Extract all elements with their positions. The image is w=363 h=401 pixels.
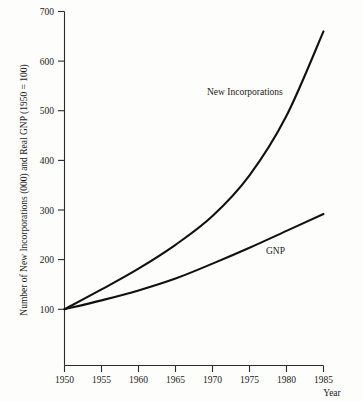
series-line-new-incorporations <box>65 31 324 309</box>
y-tick-label-100: 100 <box>40 305 55 315</box>
x-tick-label-1965: 1965 <box>166 375 185 385</box>
series-annotation-new-incorporations: New Incorporations <box>207 87 283 97</box>
chart-plot-area: 700 600 500 400 300 200 100 1950 1955 19… <box>0 0 363 401</box>
series-annotation-gnp: GNP <box>266 246 285 256</box>
x-tick-label-1955: 1955 <box>92 375 111 385</box>
series-line-gnp <box>65 214 324 309</box>
y-axis-title: Number of New Incorporations (000) and R… <box>19 64 30 315</box>
x-tick-label-1950: 1950 <box>55 375 74 385</box>
x-tick-label-1985: 1985 <box>314 375 333 385</box>
x-tick-label-1970: 1970 <box>203 375 222 385</box>
y-tick-label-700: 700 <box>40 7 55 17</box>
y-tick-label-400: 400 <box>40 156 55 166</box>
chart-figure: 700 600 500 400 300 200 100 1950 1955 19… <box>0 0 363 401</box>
y-tick-label-600: 600 <box>40 57 55 67</box>
x-tick-label-1960: 1960 <box>129 375 148 385</box>
y-axis-ticks <box>58 12 65 310</box>
x-axis-ticks <box>65 366 324 373</box>
x-tick-label-1980: 1980 <box>277 375 296 385</box>
y-tick-label-200: 200 <box>40 255 55 265</box>
x-tick-label-1975: 1975 <box>240 375 259 385</box>
x-axis-title: Year <box>323 388 341 398</box>
y-tick-label-300: 300 <box>40 206 55 216</box>
y-tick-label-500: 500 <box>40 106 55 116</box>
